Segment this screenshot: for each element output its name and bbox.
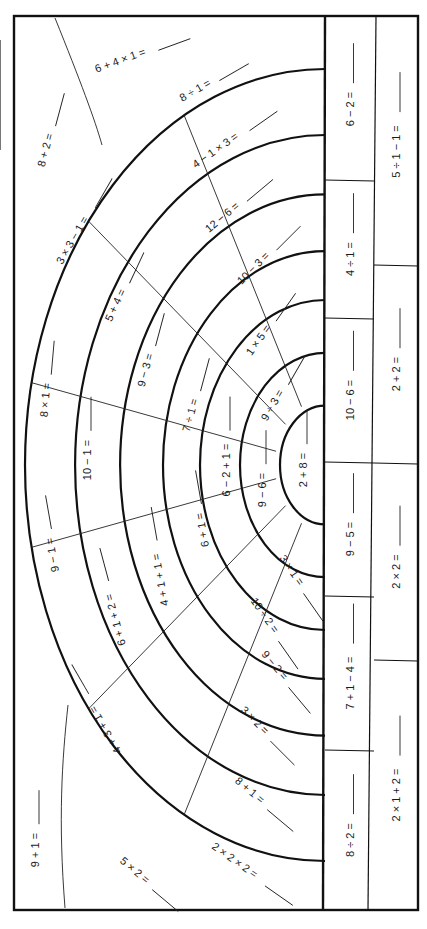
ring-2-cell-2[interactable]: 6 − 2 + 1 = — [220, 397, 232, 497]
ring-5-cell-2[interactable]: 5 + 4 = — [102, 248, 145, 323]
answer-blank[interactable] — [158, 39, 190, 51]
expression-label: 3 × 3 − 1 = — [54, 214, 91, 266]
expression-label: 8 ÷ 2 = — [344, 823, 356, 857]
ring-6-cell-2[interactable]: 3 × 3 − 1 = — [54, 173, 114, 265]
outer-column-cell-3[interactable]: 2 × 2 = — [390, 506, 402, 589]
ring-4-cell-3[interactable]: 4 + 1 + 1 = — [141, 507, 170, 607]
inner-column-cell-6[interactable]: 8 ÷ 2 = — [344, 774, 356, 857]
outer-divider-bottom — [61, 705, 68, 908]
ring-3-cell-3[interactable]: 6 + 1 = — [186, 470, 211, 548]
answer-blank[interactable] — [72, 664, 89, 693]
inner-column-cell-1[interactable]: 6 − 2 = — [344, 43, 356, 126]
ring-2-cell-1[interactable]: 1 × 5 = — [243, 288, 297, 358]
answer-blank[interactable] — [156, 313, 165, 346]
inner-column-row-divider — [325, 596, 374, 597]
expression-label: 1 × 5 = — [243, 323, 272, 358]
expression-label: 9 ÷ 3 = — [258, 387, 285, 422]
answer-blank[interactable] — [250, 111, 278, 131]
outer-column-cell-4[interactable]: 2 × 1 + 2 = — [390, 716, 402, 822]
ring-4-cell-1[interactable]: 12 − 6 = — [203, 172, 275, 235]
expression-label: 8 + 2 = — [35, 132, 55, 168]
expression-label: 6 − 2 = — [344, 92, 356, 126]
ring-5-cell-3[interactable]: 10 − 1 = — [81, 397, 93, 480]
answer-blank[interactable] — [95, 178, 112, 207]
expression-label: 6 − 2 + 1 = — [220, 444, 232, 497]
expression-label: 3 × 2 = — [239, 704, 272, 737]
expression-label: 10 − 1 = — [81, 440, 93, 480]
expression-label: 9 − 1 = — [43, 537, 61, 573]
answer-blank[interactable] — [276, 226, 300, 250]
expression-label: 6 + 4 × 1 = — [93, 45, 147, 74]
cell-dividers — [32, 18, 302, 908]
inner-column-row-divider — [325, 180, 374, 181]
expression-label: 4 ÷ 1 = — [344, 242, 356, 276]
expression-label: 3 × 1 = — [277, 553, 306, 588]
answer-blank[interactable] — [270, 741, 294, 765]
expression-label: 5 × 2 = — [118, 854, 152, 885]
expression-label: 7 + 1 − 4 = — [344, 657, 356, 710]
expression-label: 10 − 6 = — [344, 380, 356, 420]
core-cell-1[interactable]: 2 + 8 = — [297, 410, 309, 487]
answer-blank[interactable] — [304, 593, 324, 621]
ring-6-cell-3[interactable]: 8 × 1 = — [38, 340, 57, 418]
worksheet: 2 + 8 =9 ÷ 3 =9 − 6 =3 × 1 =1 × 5 =6 − 2… — [0, 0, 427, 929]
outer-cell-2[interactable]: 8 + 2 = — [35, 91, 67, 168]
ring-5-cell-1[interactable]: 4 − 1 × 3 = — [190, 103, 279, 170]
cell-divider — [32, 383, 277, 452]
expression-label: 9 − 5 = — [344, 522, 356, 556]
expression-label: 8 × 1 = — [38, 382, 53, 417]
answer-blank[interactable] — [46, 495, 52, 528]
outer-column-row-divider — [374, 660, 418, 661]
outer-column-cell-2[interactable]: 2 + 2 = — [390, 308, 402, 391]
answer-blank[interactable] — [219, 64, 248, 81]
expression-label: 4 + 3 + 1 = — [87, 704, 124, 756]
ring-6-cell-4[interactable]: 9 − 1 = — [36, 495, 61, 573]
ring-1-cell-2[interactable]: 9 − 6 = — [256, 430, 268, 507]
outer-divider-top — [55, 18, 102, 145]
expression-label: 9 − 2 = — [259, 648, 290, 682]
expression-label: 2 + 8 = — [297, 453, 309, 487]
outer-cell-1[interactable]: 6 + 4 × 1 = — [93, 29, 191, 74]
right-columns: 6 − 2 =4 ÷ 1 =10 − 6 =9 − 5 =7 + 1 − 4 =… — [325, 43, 418, 857]
answer-blank[interactable] — [56, 93, 65, 126]
outer-column-row-divider — [374, 463, 418, 464]
band-boundary-2 — [240, 353, 325, 577]
expression-label: 2 × 1 + 2 = — [390, 769, 402, 822]
answer-blank[interactable] — [289, 687, 311, 713]
expression-label: 9 + 1 = — [29, 833, 41, 867]
ring-5-cell-5[interactable]: 8 + 1 = — [233, 774, 300, 833]
expression-label: 5 ÷ 1 − 1 = — [390, 125, 402, 178]
inner-column-cell-2[interactable]: 4 ÷ 1 = — [344, 193, 356, 276]
inner-column-cell-5[interactable]: 7 + 1 − 4 = — [344, 604, 356, 710]
inner-column-cell-3[interactable]: 10 − 6 = — [344, 331, 356, 420]
expression-label: 9 − 6 = — [256, 473, 268, 507]
expression-label: 10 ÷ 2 = — [249, 595, 282, 635]
answer-blank[interactable] — [152, 890, 178, 912]
ring-3-cell-4[interactable]: 9 − 2 = — [259, 648, 318, 715]
inner-column-cell-4[interactable]: 9 − 5 = — [344, 473, 356, 556]
expression-label: 6 + 1 + 2 = — [102, 593, 127, 647]
expression-label: 2 × 2 = — [390, 554, 402, 588]
expression-label: 4 − 1 × 3 = — [190, 130, 240, 170]
answer-blank[interactable] — [201, 358, 210, 391]
inner-column-row-divider — [325, 318, 374, 319]
cell-divider — [32, 479, 277, 548]
answer-blank[interactable] — [100, 548, 109, 581]
cell-divider — [89, 221, 286, 424]
expression-label: 12 − 6 = — [203, 199, 242, 234]
answer-blank[interactable] — [51, 341, 54, 375]
ring-4-cell-4[interactable]: 3 × 2 = — [239, 704, 302, 767]
outer-cell-3[interactable]: 9 + 1 = — [29, 790, 41, 867]
answer-blank[interactable] — [267, 810, 293, 832]
expression-label: 2 + 2 = — [390, 357, 402, 391]
rainbow-column-divider — [323, 16, 325, 910]
expression-label: 2 × 2 × 2 = — [210, 840, 260, 880]
answer-blank[interactable] — [247, 179, 273, 201]
expression-label: 4 + 1 + 1 = — [149, 553, 170, 607]
outer-cell-4[interactable]: 5 × 2 = — [118, 854, 185, 913]
ring-3-cell-1[interactable]: 10 − 3 = — [234, 219, 301, 286]
outer-column-cell-1[interactable]: 5 ÷ 1 − 1 = — [390, 72, 402, 178]
ring-3-cell-2[interactable]: 7 ÷ 1 = — [180, 356, 211, 433]
answer-blank[interactable] — [265, 886, 293, 906]
answer-blank[interactable] — [276, 293, 296, 321]
